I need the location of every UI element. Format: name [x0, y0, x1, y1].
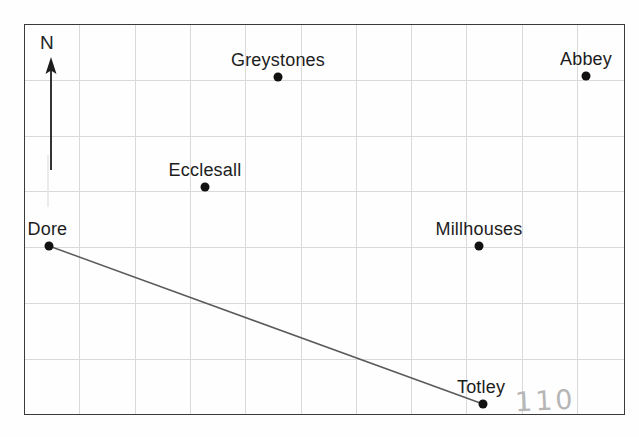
map-place-totley[interactable]: Totley: [483, 404, 484, 405]
map-place-ecclesall[interactable]: Ecclesall: [205, 187, 206, 188]
place-dot-icon: [479, 400, 488, 409]
map-place-abbey[interactable]: Abbey: [586, 76, 587, 77]
place-label: Ecclesall: [169, 160, 242, 181]
map-place-millhouses[interactable]: Millhouses: [479, 246, 480, 247]
pencil-number-annotation: 110: [514, 383, 576, 417]
place-label: Totley: [457, 377, 505, 398]
place-label: Dore: [27, 219, 67, 240]
place-dot-icon: [582, 72, 591, 81]
place-dot-icon: [201, 183, 210, 192]
place-label: Greystones: [231, 50, 325, 71]
map-figure: N GreystonesAbbeyEcclesallMillhousesDore…: [0, 0, 639, 437]
map-place-greystones[interactable]: Greystones: [278, 77, 279, 78]
place-label: Millhouses: [435, 219, 522, 240]
map-place-dore[interactable]: Dore: [49, 246, 50, 247]
north-label: N: [40, 32, 54, 54]
map-frame: [24, 24, 625, 415]
place-dot-icon: [475, 242, 484, 251]
place-dot-icon: [45, 242, 54, 251]
place-dot-icon: [274, 73, 283, 82]
place-label: Abbey: [560, 49, 612, 70]
north-arrow-icon: [40, 55, 62, 170]
